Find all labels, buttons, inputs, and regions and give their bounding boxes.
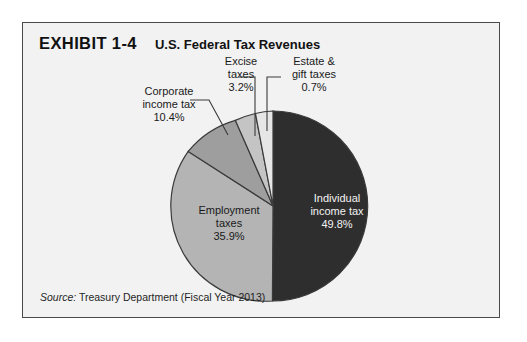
slice-label-individual-income-tax-line1: Individual [291,192,383,205]
slice-label-individual-income-tax: Individual income tax 49.8% [291,192,383,232]
slice-callout-excise-taxes-value: 3.2% [209,81,273,94]
source-note: Source: Treasury Department (Fiscal Year… [40,291,265,303]
slice-callout-excise-taxes: Excise taxes 3.2% [209,55,273,95]
slice-label-employment-taxes-line2: taxes [181,217,277,230]
source-text: Treasury Department (Fiscal Year 2013) [79,291,265,303]
slice-callout-corporate-income-tax-line1: Corporate [127,85,211,98]
pie-chart: Excise taxes 3.2% Estate & gift taxes 0.… [23,23,501,319]
slice-label-employment-taxes-value: 35.9% [181,230,277,243]
source-label: Source: [40,291,76,303]
slice-label-individual-income-tax-line2: income tax [291,205,383,218]
slice-callout-corporate-income-tax-line2: income tax [127,98,211,111]
slice-label-employment-taxes: Employment taxes 35.9% [181,204,277,244]
slice-callout-corporate-income-tax-value: 10.4% [127,111,211,124]
slice-callout-estate-gift-taxes: Estate & gift taxes 0.7% [277,55,351,95]
slice-label-employment-taxes-line1: Employment [181,204,277,217]
slice-callout-excise-taxes-line2: taxes [209,68,273,81]
slice-callout-estate-gift-taxes-value: 0.7% [277,81,351,94]
slice-callout-estate-gift-taxes-line1: Estate & [277,55,351,68]
slice-callout-corporate-income-tax: Corporate income tax 10.4% [127,85,211,125]
slice-label-individual-income-tax-value: 49.8% [291,218,383,231]
slice-callout-estate-gift-taxes-line2: gift taxes [277,68,351,81]
exhibit-panel: EXHIBIT 1-4 U.S. Federal Tax Revenues Ex… [22,22,500,318]
slice-callout-excise-taxes-line1: Excise [209,55,273,68]
